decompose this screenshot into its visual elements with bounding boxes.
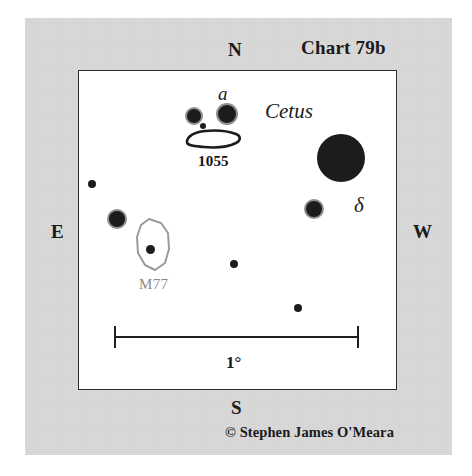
scale-bar-cap-left <box>114 326 116 348</box>
star-label-a: a <box>218 83 228 105</box>
compass-label-north: N <box>228 40 242 59</box>
compass-label-east: E <box>51 222 64 241</box>
scale-bar <box>114 326 359 348</box>
scale-bar-rule <box>114 336 359 338</box>
constellation-label: Cetus <box>265 99 313 124</box>
star-east-upper <box>88 180 96 188</box>
star-south-west <box>294 304 302 312</box>
galaxy-m77-outline <box>127 213 183 281</box>
star-label-delta: δ <box>354 193 364 218</box>
star-center-low <box>230 260 238 268</box>
compass-label-south: S <box>231 398 242 417</box>
scale-bar-cap-right <box>357 326 359 348</box>
object-label-ngc-1055: 1055 <box>198 153 229 170</box>
star-delta-ceti <box>317 134 365 182</box>
star-m77-core <box>146 245 155 254</box>
object-label-m77: M77 <box>139 276 168 293</box>
star-a <box>218 105 236 123</box>
star-chart-page: N S E W Chart 79b © Stephen James O'Mear… <box>0 0 472 476</box>
star-east-mid <box>109 211 125 227</box>
chart-title: Chart 79b <box>301 38 386 57</box>
star-west-mid <box>306 201 322 217</box>
scale-bar-label: 1° <box>226 353 241 373</box>
galaxy-ngc-1055-outline <box>181 123 245 155</box>
compass-label-west: W <box>413 222 432 241</box>
star-a-companion-west <box>187 109 201 123</box>
copyright-notice: © Stephen James O'Meara <box>225 425 394 440</box>
chart-field: Cetus δ a 1055 M77 <box>78 70 397 390</box>
